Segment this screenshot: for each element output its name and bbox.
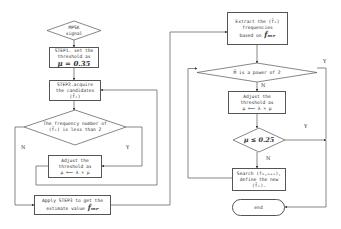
decision-freq-node: The frequency number of (f̃ᵢ) is less th… <box>34 120 116 134</box>
adjust-left-box: Adjust the threshold as μ ⟸ λ × μ <box>48 155 102 178</box>
step3-math: f̂ₘₑ <box>88 203 99 212</box>
step3-line2-wrap: estimate value f̂ₘₑ <box>46 204 99 212</box>
end-label: end <box>254 205 262 211</box>
mu-no-label: N <box>266 155 270 161</box>
decision-power-node: M̃ is a power of 2 <box>217 67 297 78</box>
step2-box: STEP2.acquire the candidates (f̃ᵢ) <box>49 80 101 101</box>
power-no-label: N <box>261 82 265 88</box>
decision-freq-line2: (f̃ᵢ) is less than 2 <box>49 127 102 133</box>
mu-yes-label: Y <box>304 123 307 129</box>
step2-line3: (f̃ᵢ) <box>69 94 80 100</box>
extract-line3: based on <box>239 33 261 38</box>
search-box: Search (fₘ,ₘₐₓ), define the new (f̃ᵢ). <box>232 168 286 191</box>
end-terminal: end <box>232 199 285 216</box>
adjust-right-box: Adjust the threshold as μ ⟸ λ × μ <box>228 91 286 114</box>
search-line3: (f̃ᵢ). <box>252 183 266 189</box>
extract-line3-wrap: based on f̂ₘₑ <box>239 31 275 39</box>
power-yes-label: Y <box>323 58 326 64</box>
extract-math: f̂ₘₑ <box>264 30 275 39</box>
start-signal-node: MPSK signal <box>52 23 96 39</box>
freq-no-label: N <box>21 144 25 150</box>
step1-box: STEP1. set the threshold as μ = 0.35 <box>49 47 99 68</box>
adjust-left-line3: μ ⟸ λ × μ <box>60 170 89 176</box>
adjust-right-line3: μ ⟸ λ × μ <box>242 106 271 112</box>
extract-box: Extract the (f̃ᵢ) frequencies based on f… <box>227 12 288 45</box>
decision-power-line1: M̃ is a power of 2 <box>233 70 280 76</box>
freq-yes-label: Y <box>126 144 129 150</box>
start-line2: signal <box>66 31 83 37</box>
decision-mu-math: μ ≤ 0.25 <box>244 136 275 144</box>
decision-mu-node: μ ≤ 0.25 <box>239 134 279 146</box>
step3-box: Apply STEP3 to get the estimate value f̂… <box>34 195 111 215</box>
step3-line2: estimate value <box>46 206 85 211</box>
step1-math: μ = 0.35 <box>58 60 91 68</box>
